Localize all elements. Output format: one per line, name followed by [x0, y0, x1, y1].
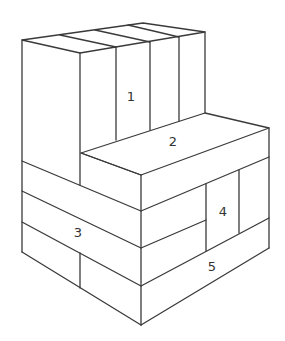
label-3: 3 — [74, 225, 82, 240]
right-face-lines — [141, 157, 269, 325]
label-2: 2 — [169, 134, 177, 149]
label-1: 1 — [127, 89, 135, 104]
left-face-lines — [22, 161, 141, 325]
tall-blocks-top — [22, 23, 205, 53]
label-4: 4 — [219, 204, 227, 219]
label-5: 5 — [208, 259, 216, 274]
block-diagram: 1 2 3 4 5 — [0, 0, 285, 341]
